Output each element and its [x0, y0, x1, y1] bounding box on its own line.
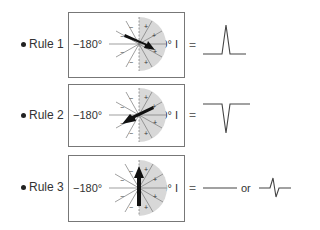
- axis-wheel-rule-3: −−−− ++++: [109, 156, 169, 220]
- axis-wheel-rule-2: −−−− ++++: [109, 85, 169, 145]
- svg-text:−: −: [129, 59, 133, 66]
- svg-text:+: +: [144, 94, 148, 101]
- minus-180-label: −180°: [73, 182, 102, 194]
- rule-1-lead-box: −180° 0° I −−−− ++++: [68, 12, 185, 78]
- minus-180-label: −180°: [73, 109, 102, 121]
- svg-text:+: +: [144, 204, 148, 211]
- svg-text:+: +: [153, 176, 157, 183]
- svg-text:−: −: [129, 130, 133, 137]
- equals-sign: =: [189, 38, 196, 52]
- rule-3-lead-box: −180° 0° I −−−− ++++: [68, 155, 185, 222]
- svg-text:+: +: [153, 193, 157, 200]
- rule-1-label: Rule 1: [29, 37, 64, 51]
- rule-2-label: Rule 2: [29, 108, 64, 122]
- svg-text:+: +: [144, 130, 148, 137]
- or-text: or: [241, 182, 251, 194]
- rule-3-label: Rule 3: [29, 180, 64, 194]
- svg-text:+: +: [144, 166, 148, 173]
- svg-text:−: −: [129, 95, 133, 102]
- inverted-waveform-icon: [200, 98, 252, 140]
- minus-180-label: −180°: [73, 38, 102, 50]
- rule-2-lead-box: −180° 0° I −−−− ++++: [68, 84, 185, 147]
- svg-text:+: +: [152, 32, 156, 39]
- equals-sign: =: [189, 108, 196, 122]
- svg-text:−: −: [129, 204, 133, 211]
- svg-text:+: +: [153, 119, 157, 126]
- svg-text:−: −: [120, 33, 124, 40]
- bullet-icon: [21, 42, 26, 47]
- svg-text:−: −: [129, 168, 133, 175]
- svg-text:+: +: [144, 23, 148, 30]
- bullet-icon: [21, 185, 26, 190]
- bullet-icon: [21, 113, 26, 118]
- upright-waveform-icon: [200, 20, 250, 60]
- axis-wheel-rule-1: −−−− ++++: [109, 13, 169, 75]
- svg-text:+: +: [144, 59, 148, 66]
- equals-sign: =: [189, 181, 196, 195]
- svg-text:−: −: [120, 193, 124, 200]
- svg-text:−: −: [120, 177, 124, 184]
- biphasic-waveform-icon: [257, 174, 293, 202]
- svg-text:−: −: [120, 104, 124, 111]
- svg-text:−: −: [129, 24, 133, 31]
- flat-line-icon: [200, 183, 240, 193]
- svg-text:−: −: [120, 49, 124, 56]
